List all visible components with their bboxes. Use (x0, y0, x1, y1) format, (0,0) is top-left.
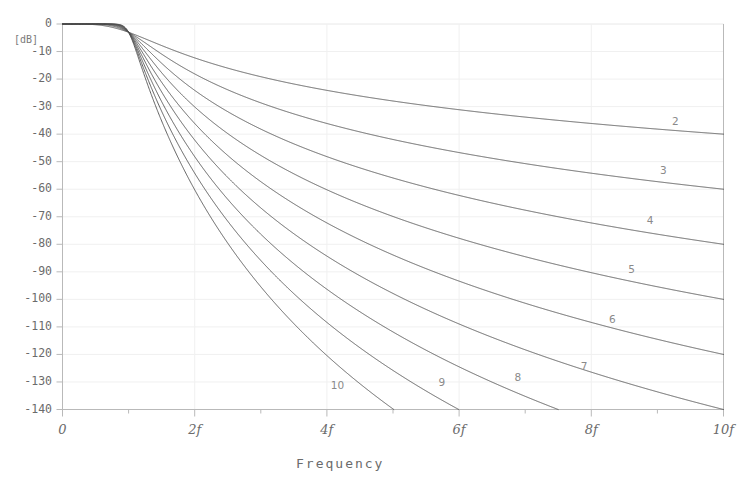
y-tick-label: -40 (0, 126, 52, 140)
y-tick-label: -50 (0, 154, 52, 168)
y-axis-unit-label: [dB] (14, 34, 38, 45)
curve-label-order-3: 3 (660, 164, 667, 176)
chart-container: 0-10-20-30-40-50-60-70-80-90-100-110-120… (0, 0, 748, 479)
curve-label-order-7: 7 (581, 360, 588, 372)
y-tick-label: -130 (0, 374, 52, 388)
curve-label-order-4: 4 (647, 214, 654, 226)
y-tick-label: -140 (0, 402, 52, 416)
x-tick-label: 4f (307, 422, 347, 437)
curve-label-order-10: 10 (331, 379, 344, 391)
y-tick-label: -120 (0, 346, 52, 360)
y-tick-label: -10 (0, 44, 52, 58)
x-tick-label: 6f (439, 422, 479, 437)
y-tick-label: -70 (0, 209, 52, 223)
y-tick-label: 0 (0, 16, 52, 30)
y-tick-label: -100 (0, 291, 52, 305)
x-tick-label: 10f (704, 422, 744, 437)
y-tick-label: -80 (0, 236, 52, 250)
curve-label-order-5: 5 (628, 263, 635, 275)
y-tick-label: -90 (0, 264, 52, 278)
x-axis-title: Frequency (296, 456, 384, 471)
x-tick-label: 2f (175, 422, 215, 437)
x-tick-label: 8f (571, 422, 611, 437)
axis-lines (59, 24, 724, 414)
curve-label-order-9: 9 (439, 376, 446, 388)
curve-label-order-6: 6 (609, 313, 616, 325)
y-tick-label: -30 (0, 99, 52, 113)
y-tick-label: -20 (0, 71, 52, 85)
y-tick-label: -60 (0, 181, 52, 195)
x-tick-label: 0 (43, 422, 83, 437)
y-tick-label: -110 (0, 319, 52, 333)
curve-label-order-2: 2 (672, 115, 679, 127)
curve-label-order-8: 8 (515, 371, 522, 383)
filter-response-plot (0, 0, 748, 479)
